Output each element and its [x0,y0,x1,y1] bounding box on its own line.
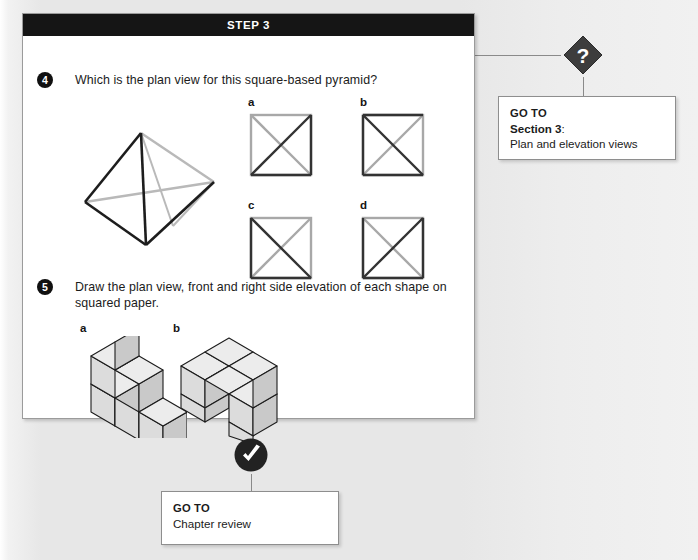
goto-label-section: GO TO [510,106,664,121]
goto-target-section-bold: Section 3 [510,122,562,135]
goto-box-chapter-review[interactable]: GO TO Chapter review [161,491,339,545]
question-4-option-a-letter: a [248,96,254,108]
step-title: STEP 3 [227,19,270,31]
pyramid-figure [81,122,231,252]
question-mark-glyph: ? [577,44,590,67]
question-4-option-c-figure[interactable] [248,215,314,281]
goto-target-section: Section 3: [510,121,664,136]
question-4-option-c-letter: c [248,199,254,211]
goto-box-section-3[interactable]: GO TO Section 3: Plan and elevation view… [498,96,676,160]
question-4-option-d-letter: d [360,199,367,211]
question-5-option-a-figure[interactable] [77,336,187,438]
question-4-text: Which is the plan view for this square-b… [75,72,377,88]
question-4-option-a-figure[interactable] [248,112,314,178]
question-5-option-b-letter: b [173,322,180,334]
goto-target-section-suffix: : [562,122,565,135]
checkmark-circle-badge[interactable] [231,435,271,475]
question-4-option-b-figure[interactable] [360,112,426,178]
page-root: STEP 3 4 Which is the plan view for this… [0,0,698,560]
step-header: STEP 3 [23,14,474,36]
question-4-number: 4 [37,72,53,88]
question-4-option-b-letter: b [360,96,367,108]
step-body: 4 Which is the plan view for this square… [23,36,474,418]
step-panel: STEP 3 4 Which is the plan view for this… [22,13,475,419]
connector-diamond-to-goto-section [583,77,584,96]
question-5-option-b-figure[interactable] [173,336,293,444]
connector-check-to-goto-chapter [251,474,252,491]
question-5-option-a-letter: a [80,322,86,334]
goto-description-section: Plan and elevation views [510,136,664,151]
goto-label-chapter: GO TO [173,501,327,516]
question-4-option-d-figure[interactable] [360,215,426,281]
connector-panel-to-question-diamond [475,55,561,56]
question-5-text: Draw the plan view, front and right side… [75,279,495,311]
question-mark-diamond-badge[interactable]: ? [561,33,605,77]
goto-description-chapter: Chapter review [173,516,327,531]
question-5-number: 5 [37,279,53,295]
